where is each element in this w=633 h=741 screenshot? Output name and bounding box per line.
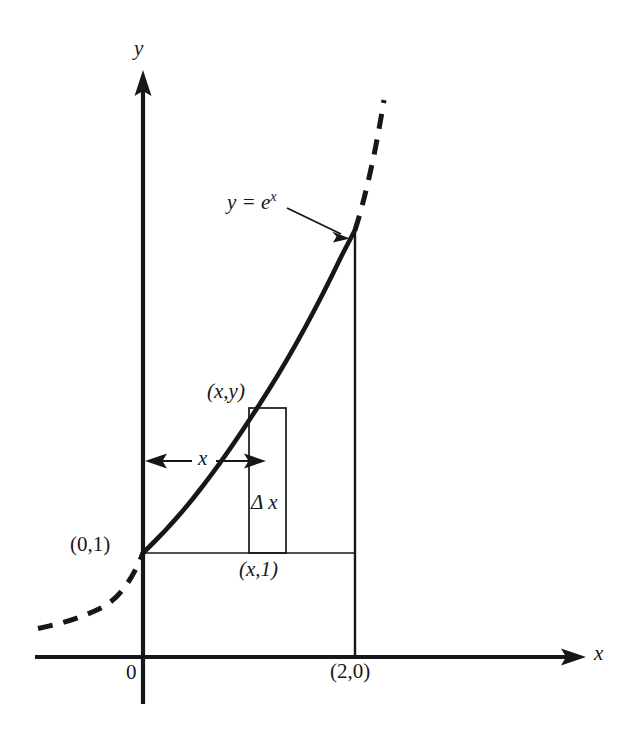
curve-callout-arrow-shaft	[287, 208, 341, 234]
curve-equation-label: y = ex	[227, 190, 277, 213]
x-axis-label: x	[594, 643, 603, 664]
y-axis-label: y	[134, 38, 143, 59]
point-label-x-1: (x,1)	[239, 559, 278, 580]
point-label-x-y: (x,y)	[207, 381, 245, 402]
axis-group	[35, 70, 586, 704]
representative-rectangle	[249, 408, 286, 553]
curve-callout-arrow-group	[287, 208, 350, 243]
exponential-curve-diagram	[0, 0, 633, 741]
point-label-2-0: (2,0)	[330, 661, 370, 682]
curve-equation-base: y = e	[227, 190, 270, 214]
curve-dashed-left-extension	[38, 553, 143, 629]
curve-equation-exponent: x	[270, 189, 276, 204]
point-label-0-1: (0,1)	[70, 534, 110, 555]
origin-label: 0	[126, 662, 137, 683]
delta-x-label: Δ x	[251, 492, 278, 513]
figure-canvas: y x 0 y = ex (0,1) (x,y) (x,1) (2,0) x Δ…	[0, 0, 633, 741]
x-dimension-label: x	[198, 448, 207, 469]
curve-dashed-right-extension	[355, 100, 384, 230]
